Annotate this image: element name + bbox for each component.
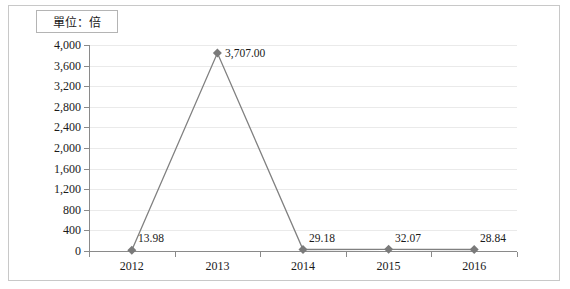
data-label-2012: 13.98 [138,232,164,244]
data-point-marker-2015 [384,245,393,254]
plot-area: 4,000 3,600 3,200 2,800 2,400 2,000 1,60… [9,6,561,282]
series-polyline [132,53,474,250]
unit-label-text: 單位：倍 [53,13,101,30]
data-point-marker-2012 [127,246,136,255]
data-label-2016: 28.84 [480,232,506,244]
data-label-2013: 3,707.00 [225,47,265,59]
data-point-marker-2016 [470,245,479,254]
data-label-2015: 32.07 [395,232,421,244]
data-point-marker-2013 [213,49,222,58]
data-label-2014: 29.18 [309,232,335,244]
data-series-line [9,6,561,282]
data-point-marker-2014 [299,245,308,254]
unit-label-box: 單位：倍 [36,10,118,33]
chart-figure: 4,000 3,600 3,200 2,800 2,400 2,000 1,60… [8,5,560,281]
